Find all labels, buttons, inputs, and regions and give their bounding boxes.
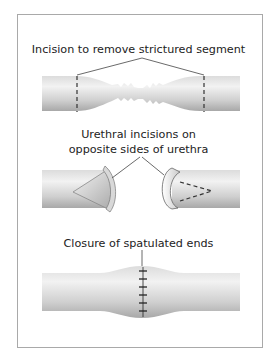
leader-line-left-end bbox=[112, 157, 140, 178]
leader-line-right-end bbox=[142, 157, 164, 175]
stricture-panel bbox=[42, 58, 240, 112]
urethra-right-end bbox=[172, 170, 240, 208]
leader-lines-stricture bbox=[77, 58, 204, 75]
rejoined-urethra bbox=[42, 266, 240, 318]
closure-panel bbox=[42, 250, 240, 318]
strictured-urethra bbox=[42, 76, 240, 111]
spatulation-panel bbox=[42, 157, 240, 212]
diagram-artwork bbox=[0, 0, 277, 358]
